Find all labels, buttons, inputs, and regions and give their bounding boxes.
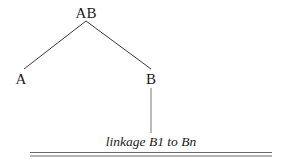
linkage-caption: linkage B1 to Bn [106,134,197,149]
node-ab: AB [76,5,97,21]
edge-ab-to-a [24,21,86,69]
tree-diagram: AB A B linkage B1 to Bn [0,0,284,165]
node-b: B [146,71,156,87]
edge-ab-to-b [86,21,151,69]
node-a: A [16,71,27,87]
